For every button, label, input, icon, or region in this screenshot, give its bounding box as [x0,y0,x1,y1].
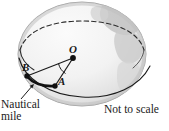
label-nautical-mile: Nautical mile [1,98,40,122]
label-nautical-line1: Nautical [1,98,40,110]
label-not-to-scale: Not to scale [104,103,159,115]
label-point-B: B [22,62,29,74]
point-B-dot [24,73,29,78]
label-nautical-line2: mile [1,110,40,122]
label-point-A: A [58,76,65,88]
point-O-dot [70,55,76,61]
point-A-dot [52,83,57,88]
nautical-mile-diagram: O B A Nautical mile Not to scale [0,0,169,131]
label-center-O: O [69,44,77,56]
